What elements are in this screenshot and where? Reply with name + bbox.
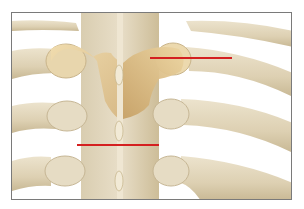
spine-illustration (12, 13, 292, 200)
illustration-frame (11, 12, 292, 200)
ribs-right (181, 21, 292, 200)
